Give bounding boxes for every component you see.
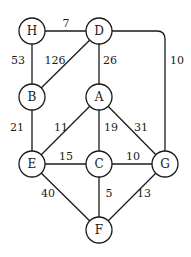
- weight-G-F: 13: [137, 187, 151, 200]
- node-label: A: [94, 90, 104, 104]
- weight-H-B: 53: [11, 54, 25, 67]
- weight-H-D: 7: [63, 17, 70, 30]
- node-label: B: [28, 90, 37, 104]
- weighted-graph: 7 53 126 26 10 21 11 19 31 15 10 40 5 13…: [0, 0, 191, 257]
- node-C: C: [86, 151, 112, 177]
- node-label: H: [27, 24, 37, 38]
- node-D: D: [86, 18, 112, 44]
- weight-E-C: 15: [59, 150, 73, 163]
- node-label: D: [94, 24, 104, 38]
- weight-D-B: 126: [45, 54, 66, 67]
- weight-E-F: 40: [41, 187, 55, 200]
- node-label: F: [95, 223, 103, 237]
- weight-C-F: 5: [106, 187, 113, 200]
- node-label: C: [94, 157, 103, 171]
- weight-A-C: 19: [104, 121, 118, 134]
- weight-D-A: 26: [103, 54, 117, 67]
- node-E: E: [19, 151, 45, 177]
- node-A: A: [86, 84, 112, 110]
- node-H: H: [19, 18, 45, 44]
- weight-A-G: 31: [134, 121, 148, 134]
- node-F: F: [86, 217, 112, 243]
- weight-D-G: 10: [170, 54, 184, 67]
- edge-D-B: [32, 31, 99, 97]
- weight-B-E: 21: [10, 121, 24, 134]
- node-G: G: [152, 151, 178, 177]
- node-label: G: [160, 157, 170, 171]
- weight-A-E: 11: [54, 121, 68, 134]
- node-label: E: [28, 157, 37, 171]
- weight-C-G: 10: [126, 150, 140, 163]
- node-B: B: [19, 84, 45, 110]
